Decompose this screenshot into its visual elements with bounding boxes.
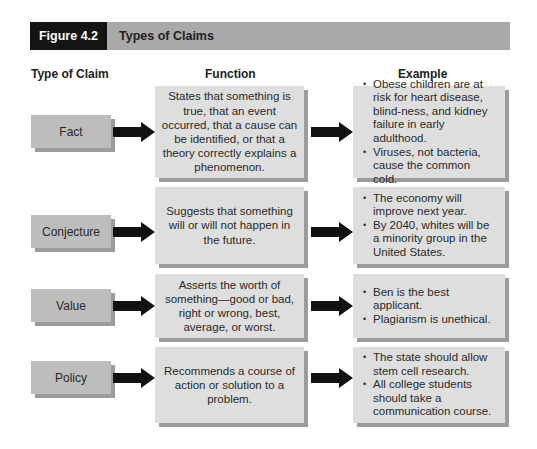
example-item: By 2040, whites will be a minority group… <box>363 219 497 260</box>
arrow-right-icon <box>311 368 353 388</box>
function-text: Asserts the worth of something—good or b… <box>161 278 298 335</box>
column-header-function: Function <box>205 67 256 81</box>
function-text: States that something is true, that an e… <box>161 89 298 174</box>
example-item: Ben is the best applicant. <box>363 286 497 313</box>
example-item: The state should allow stem cell researc… <box>363 351 497 378</box>
arrow-right-icon <box>113 296 155 316</box>
function-text: Recommends a course of action or solutio… <box>161 364 298 407</box>
example-box-conjecture: The economy will improve next year. By 2… <box>353 187 505 264</box>
example-item: The economy will improve next year. <box>363 192 497 219</box>
function-box-fact: States that something is true, that an e… <box>155 86 304 178</box>
function-text: Suggests that something will or will not… <box>161 204 298 247</box>
figure-title: Types of Claims <box>119 22 214 50</box>
arrow-right-icon <box>113 222 155 242</box>
arrow-right-icon <box>311 222 353 242</box>
claim-type-label: Policy <box>55 371 87 385</box>
function-box-policy: Recommends a course of action or solutio… <box>155 347 304 423</box>
arrow-right-icon <box>311 296 353 316</box>
example-item: Viruses, not bacteria, cause the common … <box>363 146 497 187</box>
example-item: Obese children are at risk for heart dis… <box>363 78 497 146</box>
example-list: Obese children are at risk for heart dis… <box>363 78 497 187</box>
function-box-value: Asserts the worth of something—good or b… <box>155 274 304 338</box>
figure-header: Figure 4.2 Types of Claims <box>30 22 510 50</box>
example-list: Ben is the best applicant. Plagiarism is… <box>363 286 497 327</box>
claim-type-policy: Policy <box>31 361 111 394</box>
claim-type-label: Fact <box>59 125 82 139</box>
example-box-policy: The state should allow stem cell researc… <box>353 347 505 423</box>
arrow-right-icon <box>113 122 155 142</box>
example-list: The economy will improve next year. By 2… <box>363 192 497 260</box>
arrow-right-icon <box>113 368 155 388</box>
arrow-right-icon <box>311 122 353 142</box>
example-item: All college students should take a commu… <box>363 378 497 419</box>
function-box-conjecture: Suggests that something will or will not… <box>155 187 304 264</box>
figure-number: Figure 4.2 <box>30 22 107 50</box>
column-header-type: Type of Claim <box>31 67 109 81</box>
example-box-fact: Obese children are at risk for heart dis… <box>353 86 505 178</box>
claim-type-value: Value <box>31 289 111 322</box>
claim-type-conjecture: Conjecture <box>31 215 111 248</box>
claim-type-fact: Fact <box>31 115 111 148</box>
example-box-value: Ben is the best applicant. Plagiarism is… <box>353 274 505 338</box>
claim-type-label: Conjecture <box>42 225 100 239</box>
example-item: Plagiarism is unethical. <box>363 313 497 327</box>
example-list: The state should allow stem cell researc… <box>363 351 497 419</box>
claim-type-label: Value <box>56 299 86 313</box>
